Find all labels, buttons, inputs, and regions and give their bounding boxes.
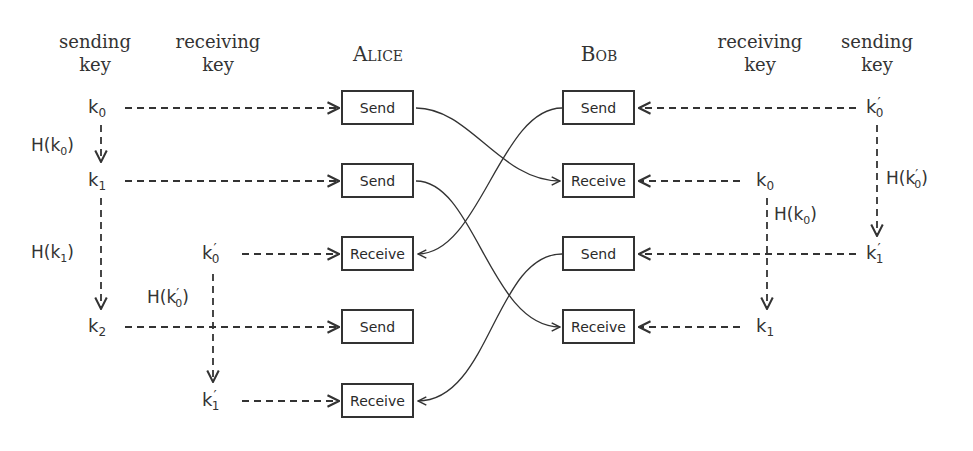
alice-send-box-3: Send [341,309,414,344]
alice-send-box-1: Send [341,90,414,125]
bob-send-box-2: Send [562,236,635,271]
message-arrow-alice-send1-to-bob-receive1 [416,108,560,181]
alice-hash-label-k1: H(k1) [31,242,74,265]
message-arrow-alice-send2-to-bob-receive2 [416,181,560,327]
alice-sending-key-k0: k0 [88,96,106,120]
alice-sending-key-k2: k2 [88,315,106,339]
alice-send-box-2: Send [341,163,414,198]
bob-receiving-key-k0: k0 [756,169,774,193]
alice-receive-box-1: Receive [341,236,414,271]
bob-receive-box-2: Receive [562,309,635,344]
bob-sending-key-k0-prime: k′0 [866,96,883,120]
bob-send-box-1: Send [562,90,635,125]
alice-receiving-key-k0-prime: k′0 [202,242,219,266]
bob-sending-key-k1-prime: k′1 [866,242,883,266]
diagram-connections [0,0,973,451]
bob-hash-label-k0: H(k0) [774,204,817,227]
bob-receiving-key-k1: k1 [756,315,774,339]
bob-receive-box-1: Receive [562,163,635,198]
alice-sending-key-k1: k1 [88,169,106,193]
alice-receiving-key-k1-prime: k′1 [202,389,219,413]
message-arrow-bob-send2-to-alice-receive2 [418,254,562,401]
bob-hash-label-k0-prime: H(k′0) [886,168,928,191]
alice-hash-label-k0-prime: H(k′0) [147,287,189,310]
alice-hash-label-k0: H(k0) [31,135,74,158]
alice-receive-box-2: Receive [341,383,414,418]
message-arrow-bob-send1-to-alice-receive1 [418,108,562,254]
